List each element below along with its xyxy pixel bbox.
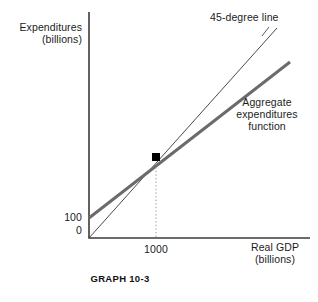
equilibrium-point-marker [152,153,160,161]
aggregate-expenditures-label: Aggregate expenditures function [226,96,308,132]
aggregate-expenditures-label-line3: function [226,120,308,132]
x-axis-title-line1: Real GDP [251,241,299,253]
y-axis-title-line2: (billions) [2,33,82,45]
y-axis-tick-100: 100 [46,211,82,223]
y-axis-tick-0: 0 [46,224,82,236]
graph-figure: Expenditures (billions) 100 0 1000 Real … [0,0,318,302]
y-axis-title-line1: Expenditures [20,21,83,33]
forty-five-degree-leader-icon [262,27,269,36]
aggregate-expenditures-line [89,62,290,218]
aggregate-expenditures-label-line2: expenditures [226,108,308,120]
y-axis-title: Expenditures (billions) [2,21,82,45]
forty-five-degree-line [89,28,277,238]
aggregate-expenditures-label-line1: Aggregate [242,96,291,108]
forty-five-degree-line-label: 45-degree line [210,11,279,23]
x-axis-title-line2: (billions) [231,253,318,265]
x-axis-title: Real GDP (billions) [231,241,318,265]
x-axis-tick-1000: 1000 [136,243,176,255]
figure-caption: GRAPH 10-3 [60,273,180,285]
